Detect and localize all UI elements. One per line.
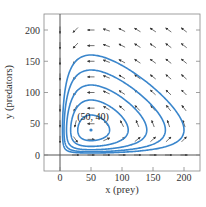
direction-arrow — [73, 43, 78, 48]
y-tick-label: 150 — [25, 56, 40, 67]
direction-arrow — [150, 44, 156, 48]
direction-arrow — [103, 60, 110, 62]
direction-arrow — [152, 120, 154, 127]
direction-arrow — [150, 75, 155, 79]
equilibrium-label: (50, 40) — [77, 111, 109, 123]
direction-arrow — [103, 76, 110, 79]
trajectory-orbits — [62, 55, 184, 153]
x-tick-label: 0 — [58, 172, 63, 183]
y-tick-label: 50 — [30, 118, 40, 129]
direction-arrow — [166, 75, 171, 80]
direction-arrow — [181, 75, 186, 80]
direction-arrow — [166, 90, 171, 95]
direction-arrow — [103, 91, 109, 94]
direction-arrow — [120, 121, 123, 127]
direction-arrow — [119, 60, 125, 63]
y-tick-label: 0 — [35, 150, 40, 161]
direction-arrow — [103, 106, 109, 109]
direction-arrow — [166, 137, 171, 142]
direction-arrow — [119, 106, 124, 111]
direction-arrow — [166, 59, 172, 63]
direction-arrow — [135, 28, 141, 32]
direction-arrow — [150, 137, 155, 142]
direction-arrow — [135, 59, 141, 63]
y-tick-label: 100 — [25, 87, 40, 98]
x-axis-title: x (prey) — [105, 184, 139, 196]
direction-arrow — [119, 75, 125, 79]
x-tick-label: 150 — [146, 172, 161, 183]
direction-arrow — [119, 91, 125, 95]
y-axis-title: y (predators) — [3, 65, 15, 119]
direction-arrow — [181, 28, 187, 32]
phase-portrait-chart: 050100150200 050100150200 (50, 40) x (pr… — [0, 0, 206, 207]
direction-arrow — [182, 105, 186, 111]
direction-arrow — [166, 105, 170, 110]
y-tick-label: 200 — [25, 25, 40, 36]
direction-arrow — [103, 29, 110, 31]
direction-arrow — [119, 44, 125, 47]
direction-arrow — [119, 28, 125, 31]
direction-arrow — [150, 59, 156, 63]
direction-arrow — [181, 43, 187, 47]
direction-arrow — [181, 59, 186, 63]
direction-arrow — [167, 120, 169, 127]
direction-arrow — [75, 120, 77, 127]
direction-arrow — [150, 90, 155, 95]
direction-arrow — [150, 28, 156, 32]
x-tick-label: 200 — [177, 172, 192, 183]
direction-arrow — [73, 28, 78, 33]
direction-arrow — [166, 28, 172, 32]
direction-arrow — [166, 44, 172, 48]
direction-arrow — [135, 44, 141, 48]
x-tick-label: 100 — [115, 172, 130, 183]
equilibrium-point — [89, 128, 92, 131]
x-axis-ticks: 050100150200 — [58, 167, 192, 183]
direction-arrow — [182, 90, 187, 95]
x-tick-label: 50 — [86, 172, 96, 183]
direction-arrow — [103, 44, 110, 46]
direction-arrow — [136, 121, 139, 127]
